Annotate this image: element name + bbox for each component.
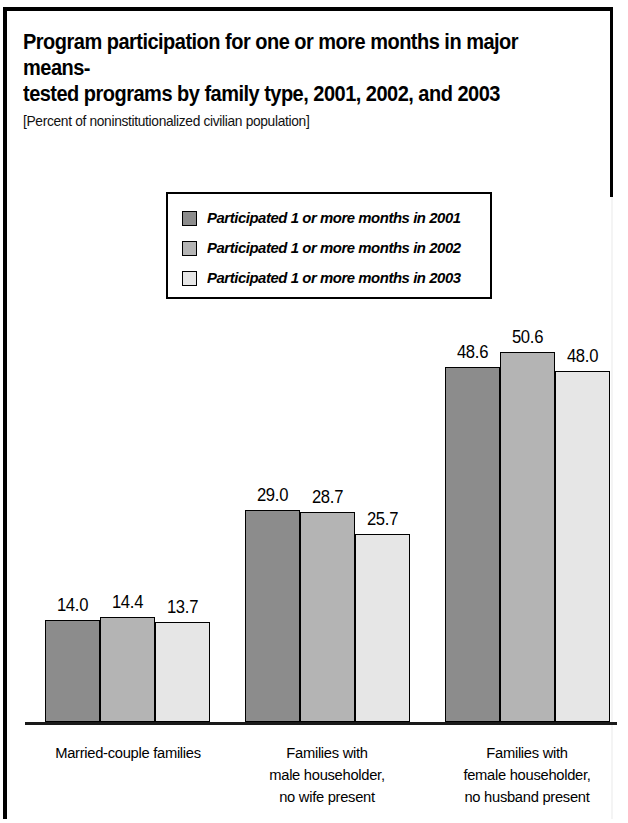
bar (500, 352, 555, 722)
bar-value-label: 29.0 (239, 485, 306, 506)
plot-area: 14.014.413.729.028.725.748.650.648.0 Mar… (7, 11, 617, 823)
bar-value-label: 14.0 (39, 595, 106, 616)
bar-value-label: 48.6 (439, 342, 506, 363)
bar (45, 620, 100, 722)
x-axis-baseline (25, 722, 617, 725)
bar (355, 534, 410, 722)
category-label: Families with male householder, no wife … (223, 742, 432, 808)
bar (445, 367, 500, 722)
chart-legend: Participated 1 or more months in 2001 Pa… (166, 192, 492, 299)
legend-item: Participated 1 or more months in 2002 (182, 233, 490, 263)
bar-value-label: 25.7 (349, 509, 416, 530)
bar (300, 512, 355, 722)
title-block: Program participation for one or more mo… (23, 29, 603, 107)
legend-label-2003: Participated 1 or more months in 2003 (207, 269, 461, 287)
category-label: Families with female householder, no hus… (423, 742, 628, 808)
bar (155, 622, 210, 722)
legend-label-2001: Participated 1 or more months in 2001 (207, 209, 461, 227)
chart-subtitle: [Percent of noninstitutionalized civilia… (23, 112, 309, 130)
figure-frame: Program participation for one or more mo… (3, 7, 613, 819)
bar-value-label: 50.6 (494, 327, 561, 348)
legend-label-2002: Participated 1 or more months in 2002 (207, 239, 461, 257)
legend-swatch-2002 (182, 241, 197, 256)
legend-item: Participated 1 or more months in 2001 (182, 203, 490, 233)
bar (100, 617, 155, 722)
bar (555, 371, 610, 722)
bar-value-label: 48.0 (549, 346, 616, 367)
bar-value-label: 28.7 (294, 487, 361, 508)
legend-item: Participated 1 or more months in 2003 (182, 263, 490, 293)
bar-value-label: 14.4 (94, 592, 161, 613)
page-title: Program participation for one or more mo… (23, 29, 562, 107)
category-label: Married-couple families (24, 742, 233, 764)
bar-value-label: 13.7 (149, 597, 216, 618)
legend-swatch-2001 (182, 211, 197, 226)
bar (245, 510, 300, 722)
legend-swatch-2003 (182, 271, 197, 286)
